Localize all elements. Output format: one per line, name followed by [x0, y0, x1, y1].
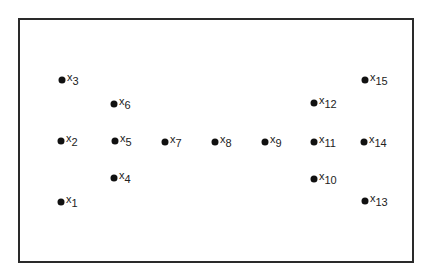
point-label: x14: [369, 133, 387, 149]
dot-marker-icon: [212, 139, 219, 146]
point-label: x12: [319, 94, 337, 110]
point-variable: x: [120, 132, 126, 144]
point-variable: x: [370, 192, 376, 204]
point-subscript: 3: [73, 75, 79, 87]
point-label: x1: [66, 193, 78, 209]
point-variable: x: [319, 170, 325, 182]
point-variable: x: [319, 94, 325, 106]
dot-marker-icon: [111, 101, 118, 108]
point-subscript: 8: [226, 137, 232, 149]
point-subscript: 12: [325, 98, 337, 110]
point-subscript: 6: [125, 99, 131, 111]
point-label: x10: [319, 170, 337, 186]
dot-marker-icon: [311, 139, 318, 146]
point-variable: x: [66, 132, 72, 144]
point-subscript: 5: [126, 136, 132, 148]
dot-marker-icon: [311, 100, 318, 107]
point-variable: x: [370, 71, 376, 83]
point-subscript: 13: [376, 196, 388, 208]
dot-marker-icon: [361, 139, 368, 146]
point-subscript: 2: [72, 136, 78, 148]
point-subscript: 10: [325, 174, 337, 186]
point-subscript: 4: [125, 173, 131, 185]
dot-marker-icon: [111, 175, 118, 182]
point-subscript: 11: [325, 137, 336, 149]
dot-marker-icon: [311, 176, 318, 183]
point-label: x6: [119, 95, 131, 111]
dot-marker-icon: [58, 199, 65, 206]
point-variable: x: [67, 71, 73, 83]
point-label: x4: [119, 169, 131, 185]
dot-marker-icon: [112, 138, 119, 145]
point-variable: x: [270, 133, 276, 145]
point-variable: x: [119, 95, 125, 107]
point-subscript: 14: [375, 137, 387, 149]
point-variable: x: [319, 133, 325, 145]
point-label: x13: [370, 192, 388, 208]
point-label: x2: [66, 132, 78, 148]
point-variable: x: [369, 133, 375, 145]
point-label: x5: [120, 132, 132, 148]
point-variable: x: [220, 133, 226, 145]
point-subscript: 7: [176, 137, 182, 149]
point-variable: x: [170, 133, 176, 145]
dot-marker-icon: [262, 139, 269, 146]
point-variable: x: [66, 193, 72, 205]
point-label: x7: [170, 133, 182, 149]
point-subscript: 15: [376, 75, 388, 87]
point-variable: x: [119, 169, 125, 181]
point-label: x11: [319, 133, 336, 149]
point-subscript: 1: [72, 197, 78, 209]
point-label: x8: [220, 133, 232, 149]
point-subscript: 9: [276, 137, 282, 149]
dot-marker-icon: [362, 198, 369, 205]
dot-marker-icon: [58, 138, 65, 145]
dot-marker-icon: [162, 139, 169, 146]
dot-marker-icon: [362, 77, 369, 84]
dot-marker-icon: [59, 77, 66, 84]
point-label: x3: [67, 71, 79, 87]
point-label: x15: [370, 71, 388, 87]
point-label: x9: [270, 133, 282, 149]
